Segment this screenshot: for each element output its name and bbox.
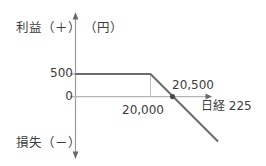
y-axis-down-arrow-icon (73, 152, 79, 160)
y-axis-profit-label: 利益（＋） (16, 22, 81, 35)
y-axis-loss-label: 損失（－） (16, 137, 81, 150)
y-tick-label-0: 0 (65, 90, 73, 102)
payoff-diagram-chart: 利益（＋） （円） 損失（－） 500 0 20,000 20,500 日経 2… (0, 0, 266, 166)
currency-unit-label: （円） (84, 22, 123, 35)
x-axis-title-label: 日経 225 (201, 100, 252, 112)
x-tick-label-20000: 20,000 (122, 104, 164, 116)
y-tick-label-500: 500 (50, 67, 73, 79)
breakeven-marker-dot (170, 94, 175, 99)
x-tick-label-20500: 20,500 (172, 79, 214, 91)
y-axis-up-arrow-icon (73, 12, 79, 20)
